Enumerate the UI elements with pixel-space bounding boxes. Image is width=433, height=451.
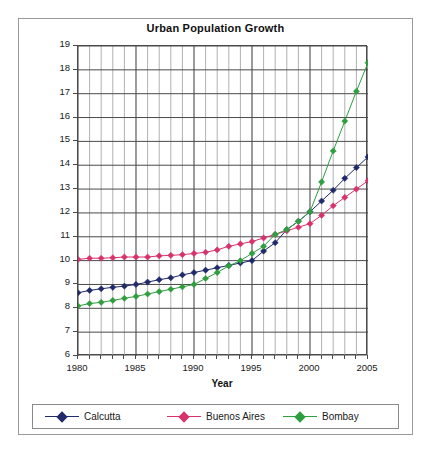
- data-point-marker: [121, 254, 127, 260]
- data-point-marker: [98, 299, 104, 305]
- x-axis-tick-mark: [123, 355, 124, 359]
- data-point-marker: [168, 252, 174, 258]
- x-axis-tick-label: 1990: [173, 362, 213, 373]
- data-point-marker: [145, 254, 151, 260]
- x-axis-tick-label: 1985: [115, 362, 155, 373]
- x-axis-tick-mark: [321, 355, 322, 359]
- data-point-marker: [295, 224, 301, 230]
- data-point-marker: [226, 243, 232, 249]
- data-point-marker: [168, 275, 174, 281]
- chart-title: Urban Population Growth: [18, 22, 413, 34]
- y-axis-tick-mark: [73, 45, 77, 46]
- series-buenos-aires: [78, 178, 368, 263]
- y-axis-tick-label: 13: [44, 181, 70, 192]
- y-axis-tick-mark: [73, 69, 77, 70]
- legend-marker-icon: [167, 411, 201, 423]
- data-point-marker: [110, 297, 116, 303]
- x-axis-tick-mark: [193, 355, 194, 359]
- data-point-marker: [191, 281, 197, 287]
- x-axis-tick-mark: [158, 355, 159, 359]
- data-point-marker: [156, 277, 162, 283]
- y-axis-tick-mark: [73, 188, 77, 189]
- y-axis-tick-mark: [73, 117, 77, 118]
- x-axis-tick-mark: [332, 355, 333, 359]
- y-axis-tick-label: 7: [44, 324, 70, 335]
- data-point-marker: [249, 250, 255, 256]
- data-point-marker: [226, 263, 232, 269]
- y-axis-tick-mark: [73, 260, 77, 261]
- chart-legend: CalcuttaBuenos AiresBombay: [32, 404, 399, 429]
- y-axis-tick-label: 12: [44, 205, 70, 216]
- data-point-marker: [261, 235, 267, 241]
- legend-item-calcutta[interactable]: Calcutta: [45, 405, 121, 428]
- y-axis-tick-mark: [73, 164, 77, 165]
- legend-diamond-icon: [178, 411, 189, 422]
- y-axis-tick-mark: [73, 331, 77, 332]
- data-point-marker: [203, 275, 209, 281]
- chart-figure: Urban Population Growth Population in Mi…: [0, 0, 433, 451]
- x-axis-tick-label: 1980: [57, 362, 97, 373]
- legend-marker-icon: [283, 411, 317, 423]
- data-point-marker: [319, 179, 325, 185]
- legend-diamond-icon: [294, 411, 305, 422]
- data-point-marker: [353, 88, 359, 94]
- x-axis-tick-mark: [239, 355, 240, 359]
- y-axis-tick-mark: [73, 93, 77, 94]
- y-axis-tick-label: 17: [44, 86, 70, 97]
- x-axis-tick-mark: [344, 355, 345, 359]
- data-point-marker: [203, 267, 209, 273]
- x-axis-tick-mark: [286, 355, 287, 359]
- y-axis-tick-mark: [73, 236, 77, 237]
- data-point-marker: [110, 284, 116, 290]
- x-axis-tick-mark: [147, 355, 148, 359]
- y-axis-tick-label: 19: [44, 38, 70, 49]
- data-point-marker: [145, 279, 151, 285]
- data-point-marker: [98, 286, 104, 292]
- data-point-marker: [237, 241, 243, 247]
- x-axis-tick-mark: [100, 355, 101, 359]
- y-axis-tick-label: 11: [44, 229, 70, 240]
- series-line: [78, 157, 368, 293]
- data-point-marker: [203, 249, 209, 255]
- x-axis-title: Year: [77, 378, 367, 389]
- legend-diamond-icon: [56, 411, 67, 422]
- data-point-marker: [168, 286, 174, 292]
- x-axis-tick-mark: [77, 355, 78, 359]
- y-axis-tick-mark: [73, 212, 77, 213]
- legend-label: Calcutta: [84, 411, 121, 422]
- y-axis-tick-label: 9: [44, 276, 70, 287]
- data-point-marker: [121, 295, 127, 301]
- y-axis-tick-mark: [73, 140, 77, 141]
- legend-marker-icon: [45, 411, 79, 423]
- legend-item-bombay[interactable]: Bombay: [283, 405, 359, 428]
- legend-label: Buenos Aires: [206, 411, 265, 422]
- data-point-marker: [214, 247, 220, 253]
- legend-item-buenos-aires[interactable]: Buenos Aires: [167, 405, 265, 428]
- y-axis-tick-label: 8: [44, 300, 70, 311]
- data-point-marker: [133, 293, 139, 299]
- data-point-marker: [179, 252, 185, 258]
- y-axis-tick-mark: [73, 307, 77, 308]
- x-axis-tick-mark: [274, 355, 275, 359]
- data-point-marker: [179, 284, 185, 290]
- x-axis-tick-mark: [89, 355, 90, 359]
- x-axis-tick-mark: [181, 355, 182, 359]
- y-axis-tick-label: 18: [44, 62, 70, 73]
- x-axis-tick-mark: [216, 355, 217, 359]
- x-axis-tick-mark: [170, 355, 171, 359]
- legend-label: Bombay: [322, 411, 359, 422]
- data-point-marker: [133, 281, 139, 287]
- y-axis-tick-mark: [73, 283, 77, 284]
- series-bombay: [78, 60, 368, 309]
- data-point-marker: [179, 272, 185, 278]
- series-line: [78, 181, 368, 260]
- data-point-marker: [365, 60, 368, 66]
- y-axis-tick-label: 14: [44, 157, 70, 168]
- data-point-marker: [249, 238, 255, 244]
- y-axis-tick-label: 10: [44, 253, 70, 264]
- y-axis-tick-label: 6: [44, 348, 70, 359]
- x-axis-tick-label: 2005: [347, 362, 387, 373]
- x-axis-tick-mark: [112, 355, 113, 359]
- x-axis-tick-label: 1995: [231, 362, 271, 373]
- x-axis-tick-mark: [251, 355, 252, 359]
